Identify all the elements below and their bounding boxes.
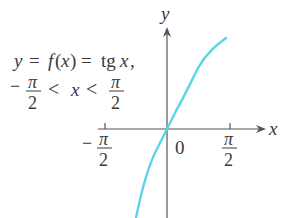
- domain-lt1: <: [48, 78, 59, 100]
- domain-two-right: 2: [111, 93, 120, 113]
- tick-left-pi: π: [99, 129, 109, 149]
- domain-lt2: <: [86, 78, 97, 100]
- domain-x: x: [70, 79, 80, 100]
- tangent-graph: x y 0 − π 2 π 2 y = f ( x ) = tg x , − π…: [0, 0, 289, 218]
- title-y: y: [12, 50, 23, 71]
- tick-left-two: 2: [99, 150, 108, 170]
- function-definition: y = f ( x ) = tg x ,: [12, 50, 135, 72]
- tangent-curve: [136, 38, 226, 218]
- x-axis-label: x: [268, 118, 278, 139]
- domain-minus: −: [10, 76, 20, 96]
- tick-right-pi: π: [224, 129, 234, 149]
- domain-pi-right: π: [111, 72, 121, 92]
- tick-right-two: 2: [224, 150, 233, 170]
- domain-pi-left: π: [28, 72, 38, 92]
- y-axis-label: y: [159, 3, 170, 24]
- title-paren-close: ): [70, 50, 76, 72]
- origin-label: 0: [175, 137, 185, 158]
- title-eq1: =: [29, 50, 40, 71]
- title-tg: tg: [101, 50, 116, 71]
- tick-left-minus: −: [82, 133, 92, 153]
- domain-two-left: 2: [28, 93, 37, 113]
- title-x: x: [119, 50, 129, 71]
- title-x-arg: x: [60, 50, 70, 71]
- domain-definition: − π 2 < x < π 2: [10, 72, 124, 113]
- title-eq2: =: [81, 50, 92, 71]
- title-comma: ,: [130, 50, 135, 71]
